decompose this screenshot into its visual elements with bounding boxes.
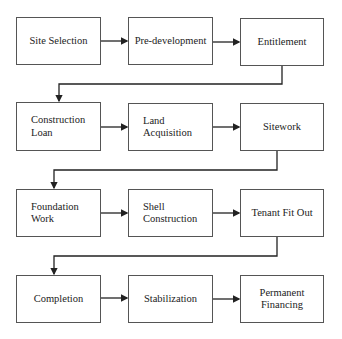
node-label: Permanent Financing [260,287,305,312]
flowchart-canvas: Site Selection Pre-development Entitleme… [0,0,342,339]
node-label: Foundation Work [31,201,79,226]
node-label: Shell Construction [143,201,197,226]
node-permanent-financing: Permanent Financing [240,275,324,323]
node-land-acquisition: Land Acquisition [128,103,213,151]
node-sitework: Sitework [240,103,324,151]
node-construction-loan: Construction Loan [16,102,101,151]
node-stabilization: Stabilization [128,275,213,323]
node-shell-construction: Shell Construction [128,189,213,237]
node-site-selection: Site Selection [16,17,101,65]
node-completion: Completion [16,275,101,323]
node-label: Pre-development [135,35,207,48]
node-entitlement: Entitlement [240,18,324,66]
node-label: Land Acquisition [143,115,192,140]
node-pre-development: Pre-development [128,17,213,65]
node-label: Sitework [263,121,301,134]
node-tenant-fit-out: Tenant Fit Out [240,189,324,237]
node-label: Completion [34,293,84,306]
node-label: Entitlement [258,36,307,49]
node-foundation-work: Foundation Work [16,189,101,237]
node-label: Construction Loan [31,114,85,139]
node-label: Site Selection [29,35,87,48]
node-label: Stabilization [144,293,197,306]
node-label: Tenant Fit Out [251,207,312,220]
